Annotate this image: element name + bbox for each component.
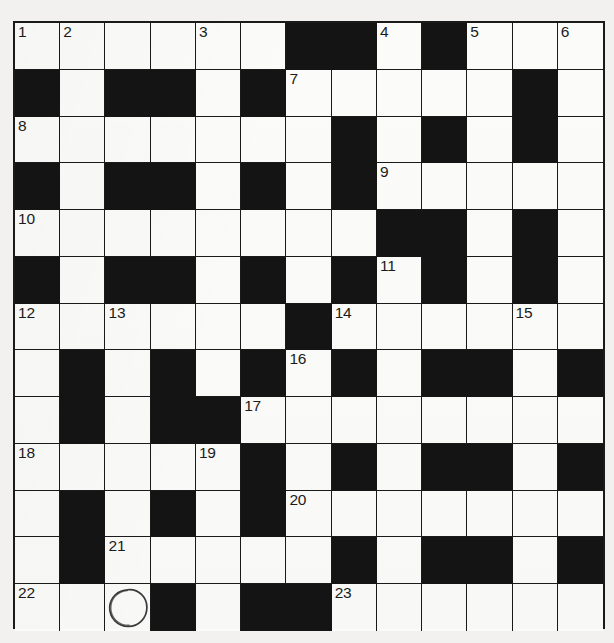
grid-cell-white[interactable] [196,70,241,117]
grid-cell-white[interactable] [241,304,286,351]
grid-cell-white[interactable]: 14 [332,304,377,351]
grid-cell-white[interactable] [377,350,422,397]
grid-cell-white[interactable] [558,210,603,257]
grid-cell-white[interactable] [196,537,241,584]
grid-cell-white[interactable] [558,584,603,630]
grid-cell-white[interactable]: 4 [377,23,422,70]
grid-cell-white[interactable] [60,304,105,351]
grid-cell-white[interactable] [60,444,105,491]
grid-cell-white[interactable] [467,210,512,257]
grid-cell-white[interactable]: 2 [60,23,105,70]
grid-cell-white[interactable] [332,397,377,444]
grid-cell-white[interactable] [422,584,467,630]
grid-cell-white[interactable] [332,210,377,257]
grid-cell-white[interactable] [151,537,196,584]
grid-cell-white[interactable] [377,584,422,630]
grid-cell-white[interactable] [60,117,105,164]
grid-cell-white[interactable] [286,444,331,491]
grid-cell-white[interactable] [105,210,150,257]
grid-cell-white[interactable] [558,70,603,117]
grid-cell-white[interactable] [467,117,512,164]
grid-cell-white[interactable]: 9 [377,163,422,210]
grid-cell-white[interactable] [196,163,241,210]
grid-cell-white[interactable]: 6 [558,23,603,70]
grid-cell-white[interactable]: 3 [196,23,241,70]
grid-cell-white[interactable] [241,210,286,257]
grid-cell-white[interactable] [558,257,603,304]
grid-cell-white[interactable] [377,304,422,351]
grid-cell-white[interactable]: 23 [332,584,377,630]
grid-cell-white[interactable] [513,350,558,397]
grid-cell-white[interactable] [422,397,467,444]
grid-cell-white[interactable] [422,70,467,117]
grid-cell-white[interactable] [15,491,60,538]
grid-cell-white[interactable] [196,350,241,397]
grid-cell-white[interactable] [558,491,603,538]
grid-cell-white[interactable] [105,444,150,491]
grid-cell-white[interactable] [332,70,377,117]
grid-cell-white[interactable] [377,444,422,491]
grid-cell-white[interactable] [151,23,196,70]
grid-cell-white[interactable] [196,257,241,304]
grid-cell-white[interactable] [377,117,422,164]
grid-cell-white[interactable] [60,70,105,117]
grid-cell-white[interactable] [151,304,196,351]
grid-cell-white[interactable] [286,163,331,210]
grid-cell-white[interactable] [286,210,331,257]
grid-cell-white[interactable] [105,117,150,164]
grid-cell-white[interactable] [286,117,331,164]
grid-cell-white[interactable] [467,304,512,351]
grid-cell-white[interactable] [286,537,331,584]
grid-cell-white[interactable] [286,257,331,304]
grid-cell-white[interactable] [196,584,241,630]
grid-cell-white[interactable]: 16 [286,350,331,397]
grid-cell-white[interactable] [60,210,105,257]
grid-cell-white[interactable] [422,163,467,210]
grid-cell-white[interactable]: 20 [286,491,331,538]
grid-cell-white[interactable] [196,304,241,351]
grid-cell-white[interactable] [467,397,512,444]
grid-cell-white[interactable]: 22 [15,584,60,630]
crossword-grid[interactable]: 1234567891011121314151617181920212223 [13,21,605,629]
grid-cell-white[interactable] [558,163,603,210]
grid-cell-white[interactable] [513,584,558,630]
grid-cell-white[interactable]: 1 [15,23,60,70]
grid-cell-white[interactable] [105,491,150,538]
grid-cell-white[interactable] [60,257,105,304]
grid-cell-white[interactable] [332,491,377,538]
grid-cell-white[interactable] [105,584,150,630]
grid-cell-white[interactable] [241,117,286,164]
grid-cell-white[interactable] [513,163,558,210]
grid-cell-white[interactable] [467,491,512,538]
grid-cell-white[interactable]: 7 [286,70,331,117]
grid-cell-white[interactable] [513,397,558,444]
grid-cell-white[interactable]: 10 [15,210,60,257]
grid-cell-white[interactable] [60,584,105,630]
grid-cell-white[interactable] [377,70,422,117]
grid-cell-white[interactable] [15,397,60,444]
grid-cell-white[interactable] [15,350,60,397]
grid-cell-white[interactable] [422,491,467,538]
grid-cell-white[interactable] [558,397,603,444]
grid-cell-white[interactable] [467,70,512,117]
grid-cell-white[interactable] [467,163,512,210]
grid-cell-white[interactable] [151,444,196,491]
grid-cell-white[interactable] [558,304,603,351]
grid-cell-white[interactable]: 8 [15,117,60,164]
grid-cell-white[interactable] [558,117,603,164]
grid-cell-white[interactable]: 15 [513,304,558,351]
grid-cell-white[interactable] [60,163,105,210]
grid-cell-white[interactable]: 11 [377,257,422,304]
grid-cell-white[interactable] [196,491,241,538]
grid-cell-white[interactable]: 13 [105,304,150,351]
grid-cell-white[interactable] [467,257,512,304]
grid-cell-white[interactable] [151,210,196,257]
grid-cell-white[interactable] [241,537,286,584]
grid-cell-white[interactable] [196,117,241,164]
grid-cell-white[interactable] [105,23,150,70]
grid-cell-white[interactable] [105,350,150,397]
grid-cell-white[interactable] [467,584,512,630]
grid-cell-white[interactable] [422,304,467,351]
grid-cell-white[interactable] [377,397,422,444]
grid-cell-white[interactable]: 17 [241,397,286,444]
